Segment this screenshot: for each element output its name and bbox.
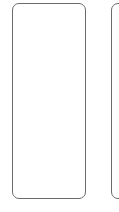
blank-card-left (12, 3, 86, 199)
blank-card-right (111, 3, 119, 199)
